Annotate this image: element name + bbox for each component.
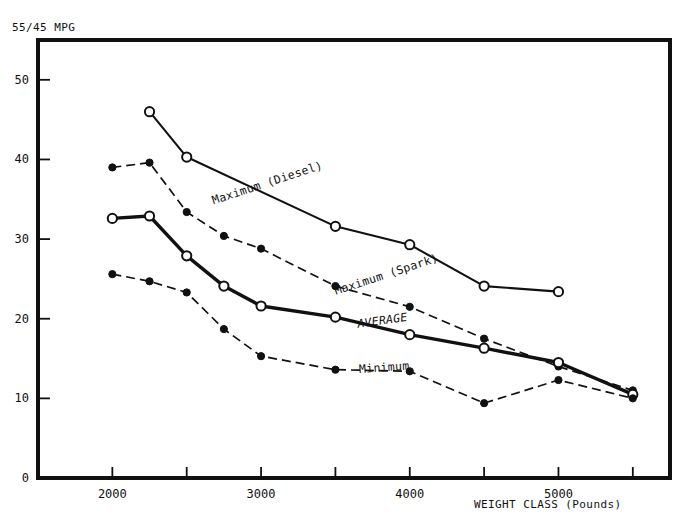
data-point bbox=[109, 164, 116, 171]
data-point bbox=[145, 211, 154, 220]
data-point bbox=[481, 400, 488, 407]
data-point bbox=[109, 271, 116, 278]
y-axis-ticks bbox=[40, 80, 50, 399]
data-point bbox=[331, 313, 340, 322]
y-tick-label: 20 bbox=[15, 312, 29, 326]
data-point bbox=[481, 335, 488, 342]
series-annotation: Maximum (Spark) bbox=[333, 251, 440, 298]
data-point bbox=[220, 232, 227, 239]
data-point bbox=[405, 240, 414, 249]
data-point bbox=[182, 152, 191, 161]
series-annotation: Minimum bbox=[358, 359, 409, 376]
data-point bbox=[480, 344, 489, 353]
plot-area: 2000300040005000 01020304050 Maximum (Di… bbox=[0, 0, 689, 529]
y-tick-label: 0 bbox=[22, 471, 29, 485]
data-point bbox=[257, 245, 264, 252]
x-axis-ticks bbox=[112, 467, 632, 476]
data-point bbox=[145, 107, 154, 116]
data-point bbox=[257, 353, 264, 360]
data-point bbox=[480, 281, 489, 290]
x-tick-label: 4000 bbox=[395, 487, 424, 501]
data-point bbox=[220, 325, 227, 332]
mpg-weight-class-chart: 55/45 MPG WEIGHT CLASS (Pounds) 20003000… bbox=[0, 0, 689, 529]
data-point bbox=[405, 330, 414, 339]
series-annotation: Maximum (Diesel) bbox=[210, 158, 324, 207]
data-point bbox=[554, 287, 563, 296]
x-tick-label: 2000 bbox=[98, 487, 127, 501]
data-point bbox=[108, 214, 117, 223]
data-point bbox=[629, 395, 636, 402]
data-point bbox=[406, 303, 413, 310]
data-point bbox=[183, 289, 190, 296]
y-tick-label: 10 bbox=[15, 391, 29, 405]
data-point bbox=[555, 376, 562, 383]
y-axis-tick-labels: 01020304050 bbox=[15, 73, 29, 485]
data-point bbox=[182, 251, 191, 260]
data-point bbox=[554, 358, 563, 367]
x-axis-tick-labels: 2000300040005000 bbox=[98, 487, 573, 501]
plot-frame bbox=[38, 40, 670, 478]
data-point bbox=[331, 222, 340, 231]
x-tick-label: 5000 bbox=[544, 487, 573, 501]
series-line-maximum-diesel bbox=[150, 112, 559, 292]
data-point bbox=[183, 208, 190, 215]
y-tick-label: 40 bbox=[15, 152, 29, 166]
data-point bbox=[146, 278, 153, 285]
y-tick-label: 50 bbox=[15, 73, 29, 87]
data-point bbox=[146, 159, 153, 166]
data-point bbox=[256, 301, 265, 310]
x-tick-label: 3000 bbox=[247, 487, 276, 501]
data-point bbox=[219, 281, 228, 290]
data-point bbox=[332, 366, 339, 373]
y-tick-label: 30 bbox=[15, 232, 29, 246]
